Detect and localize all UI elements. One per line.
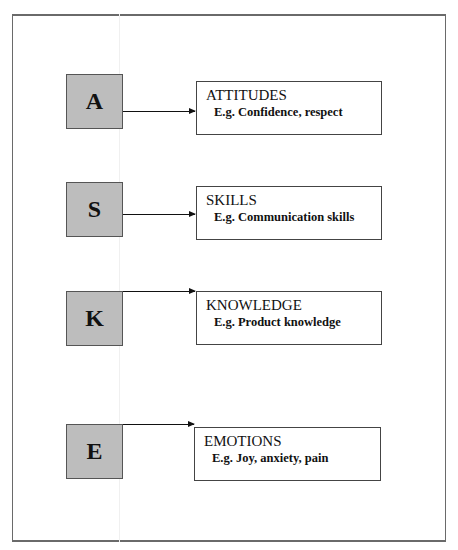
letter-s: S — [88, 196, 101, 223]
letter-box-k: K — [66, 291, 123, 346]
arrow-right-icon — [123, 214, 195, 215]
label-title: EMOTIONS — [204, 433, 380, 450]
letter-box-e: E — [66, 424, 123, 479]
label-example: E.g. Confidence, respect — [206, 104, 381, 120]
label-box-knowledge: KNOWLEDGE E.g. Product knowledge — [196, 291, 382, 345]
arrow-right-icon — [123, 291, 195, 292]
label-example: E.g. Joy, anxiety, pain — [204, 450, 380, 466]
label-title: KNOWLEDGE — [206, 297, 381, 314]
arrow-right-icon — [123, 111, 195, 112]
label-title: ATTITUDES — [206, 87, 381, 104]
label-example: E.g. Product knowledge — [206, 314, 381, 330]
letter-k: K — [85, 305, 104, 332]
label-box-emotions: EMOTIONS E.g. Joy, anxiety, pain — [194, 427, 381, 481]
arrow-right-icon — [123, 424, 194, 425]
letter-a: A — [86, 88, 103, 115]
label-box-skills: SKILLS E.g. Communication skills — [196, 186, 382, 240]
label-example: E.g. Communication skills — [206, 209, 381, 225]
label-title: SKILLS — [206, 192, 381, 209]
letter-box-s: S — [66, 182, 123, 237]
letter-box-a: A — [66, 74, 123, 129]
label-box-attitudes: ATTITUDES E.g. Confidence, respect — [196, 81, 382, 135]
letter-e: E — [86, 438, 102, 465]
